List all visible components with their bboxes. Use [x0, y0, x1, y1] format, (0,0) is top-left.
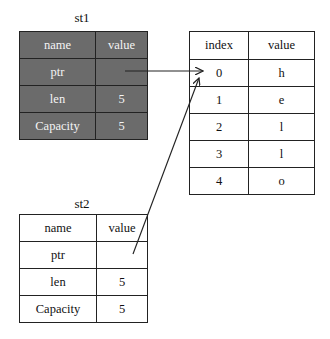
pointer-arrows [0, 0, 330, 339]
st2-ptr-arrow [133, 78, 199, 254]
